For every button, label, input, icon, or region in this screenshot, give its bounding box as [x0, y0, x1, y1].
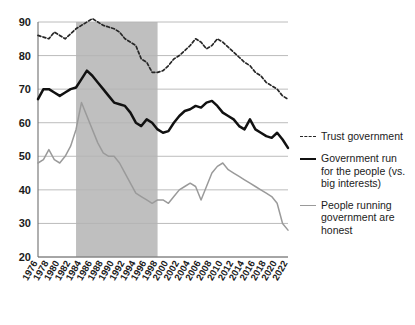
y-tick-label: 40: [19, 184, 31, 196]
y-tick-label: 30: [19, 217, 31, 229]
legend-item-government-for-people: Government run for the people (vs. big i…: [300, 152, 412, 190]
legend-label: People running government are honest: [321, 199, 412, 237]
legend-label: Trust government: [321, 130, 403, 143]
solid-gray-line-swatch-icon: [300, 199, 316, 212]
y-axis-tick-labels: 2030405060708090: [19, 16, 31, 263]
legend-item-government-honest: People running government are honest: [300, 199, 412, 237]
chart-container: 2030405060708090 19761978198019821984198…: [0, 0, 415, 325]
axis-lines: [38, 22, 288, 257]
y-tick-label: 70: [19, 83, 31, 95]
y-tick-label: 50: [19, 150, 31, 162]
y-tick-label: 90: [19, 16, 31, 28]
y-tick-label: 60: [19, 117, 31, 129]
shaded-band-group: [76, 22, 158, 257]
gridlines: [38, 22, 288, 257]
x-axis-tick-labels: 1976197819801982198419861988199019921994…: [20, 258, 290, 282]
solid-black-line-swatch-icon: [300, 152, 316, 165]
chart-legend: Trust government Government run for the …: [300, 130, 412, 245]
data-series-group: [38, 19, 288, 231]
legend-item-trust-government: Trust government: [300, 130, 412, 143]
y-tick-label: 80: [19, 50, 31, 62]
dashed-line-swatch-icon: [300, 130, 316, 143]
legend-label: Government run for the people (vs. big i…: [321, 152, 412, 190]
shaded-band: [76, 22, 158, 257]
government-for-people-line: [38, 71, 288, 148]
